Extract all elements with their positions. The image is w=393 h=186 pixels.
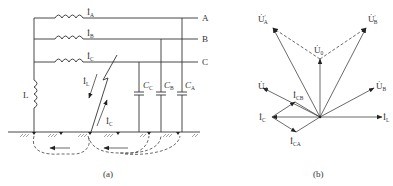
ground-return-path-left (33, 136, 89, 154)
phasor-origin (319, 116, 322, 119)
fault-current-l-label: İL (83, 76, 90, 87)
fault-current-c-label: İC (106, 116, 113, 127)
phase-current-b-label: İB (87, 28, 94, 39)
label-icb: İCB (293, 90, 304, 101)
phasor-ub-prime (320, 28, 366, 117)
capacitor-cc (134, 62, 144, 132)
label-ic: İC (259, 112, 266, 123)
bus-line-b (34, 36, 198, 39)
bus-line-a (34, 15, 198, 18)
phasor-ua-prime (273, 28, 320, 117)
inductor-phase-a (55, 15, 83, 18)
phasor-ub (320, 88, 374, 117)
capacitor-ca-label: CA (185, 80, 195, 91)
inductor-l (34, 80, 37, 108)
dashed-u0-to-ub-prime (320, 28, 366, 59)
inductor-phase-b (55, 36, 83, 39)
capacitor-cc-label: CC (143, 80, 153, 91)
bus-label-a: A (202, 13, 209, 23)
capacitor-ca (177, 18, 187, 132)
phasor-ua (263, 88, 320, 117)
capacitor-cb-label: CB (164, 80, 174, 91)
diagram-canvas: L A B C İA İB İC CC CB CA (0, 0, 393, 186)
inductor-phase-c (55, 59, 83, 62)
label-u0: U̇0 (314, 45, 324, 56)
figure-a-circuit: L A B C İA İB İC CC CB CA (8, 7, 209, 179)
label-ub-prime: U̇′B (368, 14, 378, 25)
label-ua: U̇A (258, 81, 269, 92)
ground-return-path-right (88, 136, 149, 153)
figure-b-phasor-diagram: U̇′A U̇′B U̇0 U̇A U̇B İCB İC İCA İL (b) (258, 14, 390, 179)
bus-line-c (34, 59, 198, 62)
fault-current-l-arrow (89, 74, 97, 98)
bus-label-c: C (202, 57, 208, 67)
fault-arc (91, 55, 117, 132)
label-ub: U̇B (376, 81, 387, 92)
phasor-ica (272, 117, 296, 132)
label-il: İL (383, 112, 390, 123)
phasor-icb (272, 102, 295, 117)
phase-current-c-label: İC (87, 51, 94, 62)
label-ica: İCA (290, 136, 301, 147)
inductor-l-label: L (23, 90, 29, 100)
figure-b-caption: (b) (313, 169, 324, 179)
figure-a-caption: (a) (103, 169, 113, 179)
label-ua-prime: U̇′A (258, 14, 268, 25)
dashed-u0-to-ua-prime (273, 28, 320, 59)
ground-hatching (20, 134, 198, 137)
phase-current-a-label: İA (87, 7, 94, 18)
bus-label-b: B (202, 34, 208, 44)
